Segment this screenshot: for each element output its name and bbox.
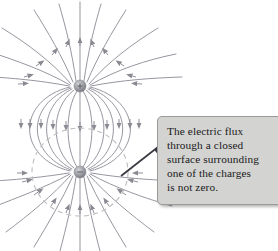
negative-charge-sphere xyxy=(74,166,86,178)
outer-field-lines-upper xyxy=(0,2,182,86)
physics-figure: The electric flux through a closed surfa… xyxy=(0,0,278,251)
positive-charge-sphere xyxy=(74,80,86,92)
outer-field-lines-lower xyxy=(0,173,180,251)
callout-box: The electric flux through a closed surfa… xyxy=(157,116,278,205)
callout-text: The electric flux through a closed surfa… xyxy=(167,124,276,194)
